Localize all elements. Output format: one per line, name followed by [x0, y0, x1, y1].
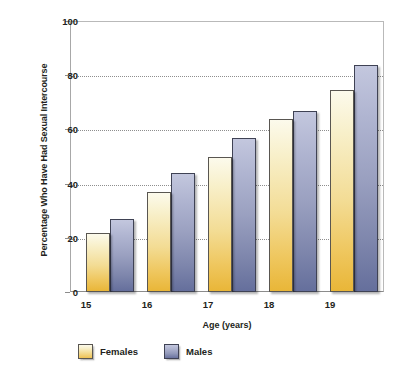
bar-males-16 — [171, 173, 195, 292]
bar-females-15 — [86, 233, 110, 292]
x-axis-title: Age (years) — [70, 320, 384, 330]
legend-label-males: Males — [186, 346, 212, 357]
legend-swatch-males-icon — [164, 344, 179, 359]
bar-group-18 — [269, 22, 317, 292]
bars-layer — [71, 22, 383, 292]
bar-chart: Percentage Who Have Had Sexual Intercour… — [0, 0, 409, 374]
bar-males-19 — [354, 65, 378, 292]
bar-females-18 — [269, 119, 293, 292]
y-axis-title: Percentage Who Have Had Sexual Intercour… — [39, 20, 49, 300]
legend-swatch-females-icon — [78, 344, 93, 359]
bar-females-19 — [330, 90, 354, 293]
bar-group-19 — [330, 22, 378, 292]
bar-females-17 — [208, 157, 232, 292]
bar-females-16 — [147, 192, 171, 292]
legend-item-females: Females — [78, 344, 138, 359]
x-tick-label-17: 17 — [178, 299, 238, 310]
x-tick-label-18: 18 — [239, 299, 299, 310]
legend-label-females: Females — [100, 346, 138, 357]
x-tick-label-19: 19 — [300, 299, 360, 310]
bar-males-15 — [110, 219, 134, 292]
bar-group-17 — [208, 22, 256, 292]
bar-group-16 — [147, 22, 195, 292]
legend-item-males: Males — [164, 344, 212, 359]
bar-males-17 — [232, 138, 256, 292]
x-tick-label-15: 15 — [56, 299, 116, 310]
bar-males-18 — [293, 111, 317, 292]
chart-legend: Females Males — [78, 344, 212, 359]
x-tick-label-16: 16 — [117, 299, 177, 310]
bar-group-15 — [86, 22, 134, 292]
